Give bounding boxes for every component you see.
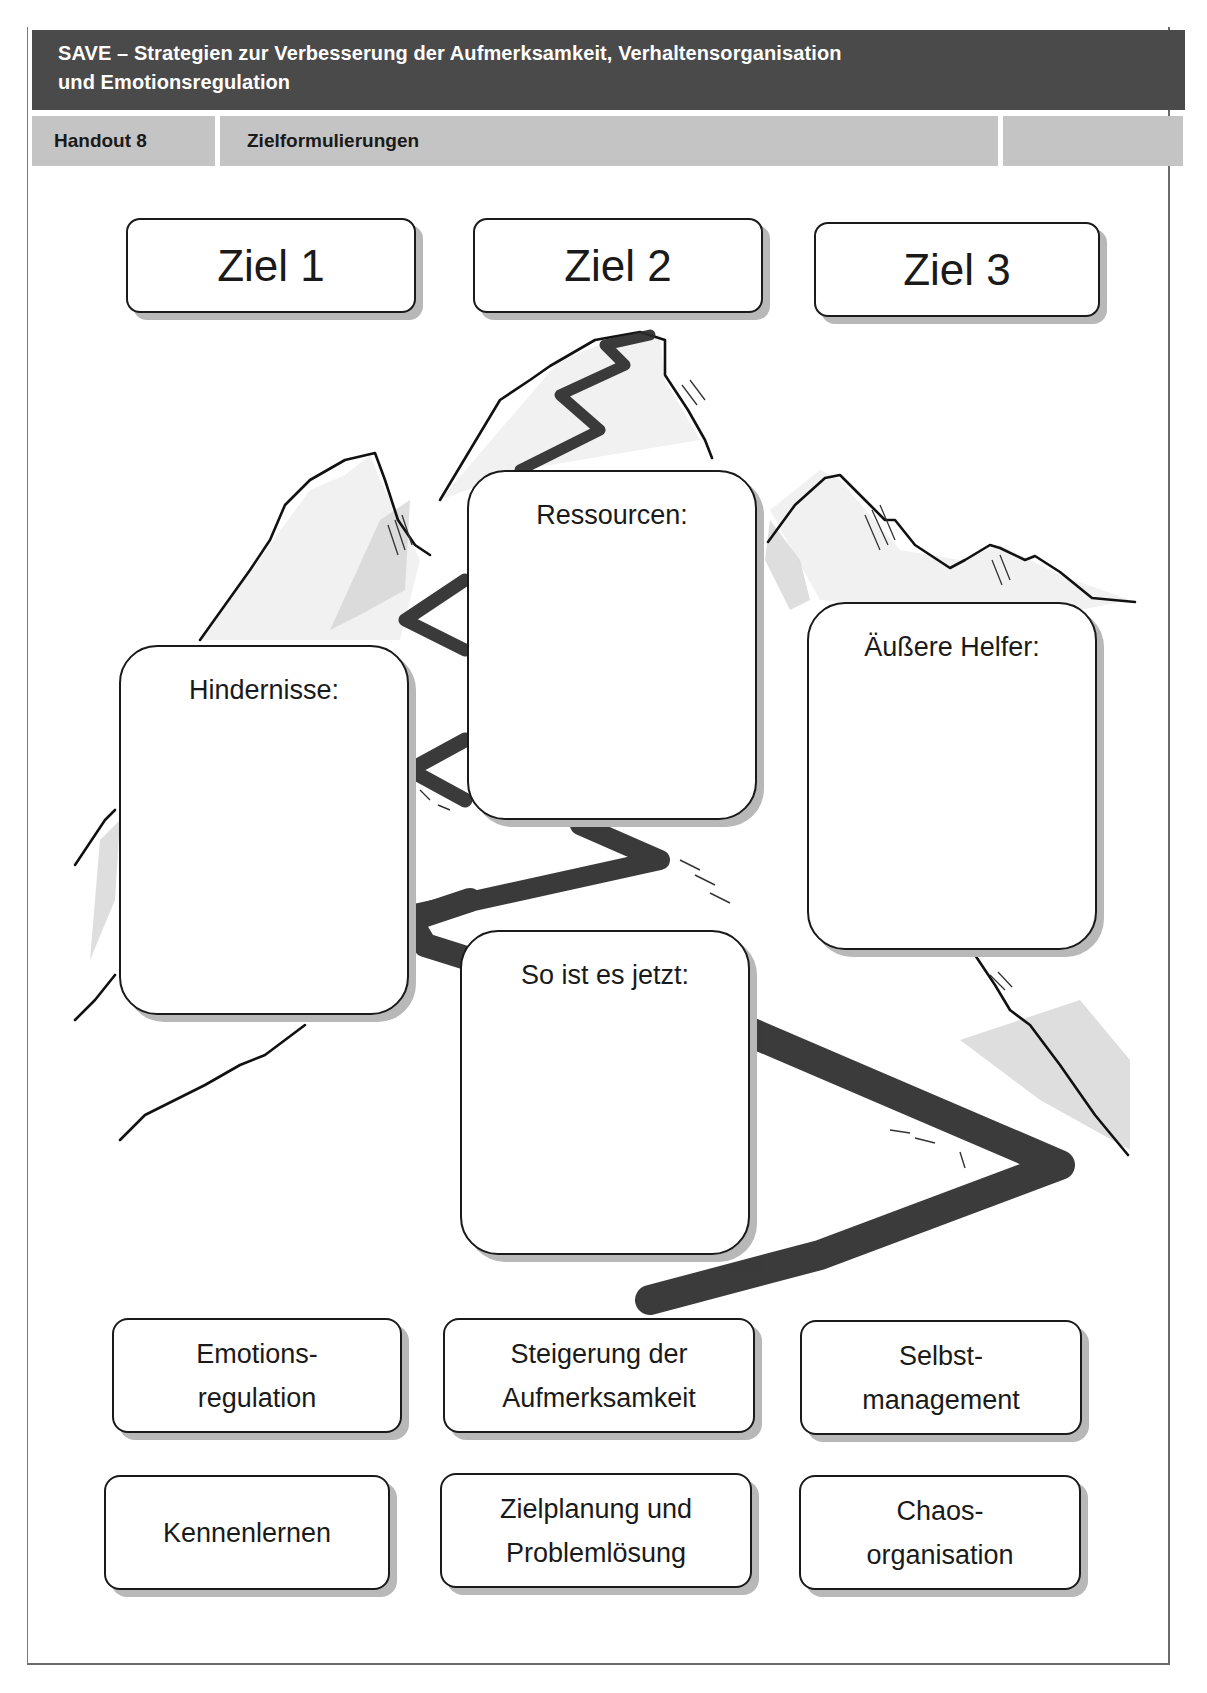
module-attention[interactable]: Steigerung der Aufmerksamkeit (443, 1318, 755, 1433)
external-helpers-label: Äußere Helfer: (864, 632, 1040, 663)
goal-box-3[interactable]: Ziel 3 (814, 222, 1100, 317)
resources-box[interactable]: Ressourcen: (467, 470, 757, 820)
module-chaos-organisation[interactable]: Chaos- organisation (799, 1475, 1081, 1590)
module-label: Zielplanung und Problemlösung (500, 1487, 692, 1575)
goal-box-2[interactable]: Ziel 2 (473, 218, 763, 313)
obstacles-box[interactable]: Hindernisse: (119, 645, 409, 1015)
header-title-line2: und Emotionsregulation (58, 68, 1159, 97)
header-title-line1: SAVE – Strategien zur Verbesserung der A… (58, 39, 1159, 68)
module-getting-to-know[interactable]: Kennenlernen (104, 1475, 390, 1590)
goal-label-1: Ziel 1 (217, 241, 325, 291)
current-state-label: So ist es jetzt: (521, 960, 689, 991)
handout-number: Handout 8 (32, 116, 215, 166)
obstacles-label: Hindernisse: (189, 675, 339, 706)
module-goal-planning[interactable]: Zielplanung und Problemlösung (440, 1473, 752, 1588)
handout-title: Zielformulierungen (220, 116, 998, 166)
current-state-box[interactable]: So ist es jetzt: (460, 930, 750, 1255)
goal-box-1[interactable]: Ziel 1 (126, 218, 416, 313)
module-label: Selbst- management (862, 1334, 1020, 1422)
module-label: Chaos- organisation (866, 1489, 1013, 1577)
goal-label-2: Ziel 2 (564, 241, 672, 291)
handout-extra-cell (1003, 116, 1183, 166)
document-header: SAVE – Strategien zur Verbesserung der A… (32, 30, 1185, 110)
goal-label-3: Ziel 3 (903, 245, 1011, 295)
module-self-management[interactable]: Selbst- management (800, 1320, 1082, 1435)
resources-label: Ressourcen: (536, 500, 688, 531)
module-label: Kennenlernen (163, 1511, 331, 1555)
module-label: Emotions- regulation (196, 1332, 318, 1420)
module-label: Steigerung der Aufmerksamkeit (502, 1332, 696, 1420)
external-helpers-box[interactable]: Äußere Helfer: (807, 602, 1097, 950)
module-emotions-regulation[interactable]: Emotions- regulation (112, 1318, 402, 1433)
